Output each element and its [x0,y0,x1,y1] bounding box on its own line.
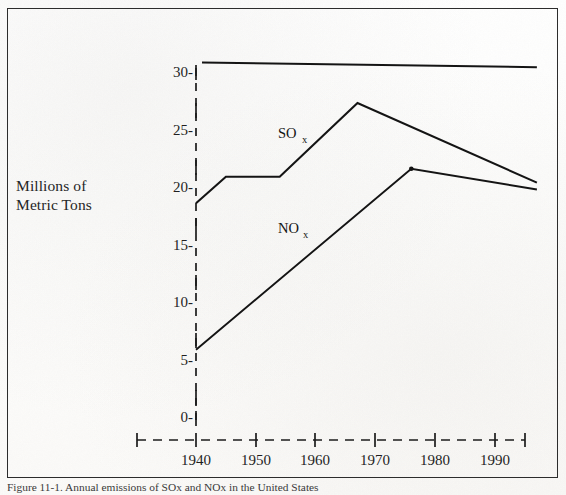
series-label-sox-subscript: x [302,134,308,145]
series-label-nox: NO x [278,220,309,240]
x-tick-label-1960: 1960 [300,452,330,468]
series-line-top-reference [202,63,537,68]
line-chart-plot: 30- 25- 20- 15- 10- 5- 0- 1940 1950 1960 [7,8,558,478]
series-label-nox-text: NO [278,220,299,236]
series-label-sox-text: SO [278,125,297,141]
y-axis-tick-labels: 30- 25- 20- 15- 10- 5- 0- [173,64,193,425]
y-tick-label-30: 30- [173,64,193,80]
x-axis-tick-labels: 1940 1950 1960 1970 1980 1990 [181,452,510,468]
series-line-sox [196,103,537,203]
series-label-sox: SO x [278,125,308,145]
y-tick-label-15: 15- [173,237,193,253]
y-tick-label-25: 25- [173,122,193,138]
x-tick-label-1940: 1940 [181,452,211,468]
y-tick-label-0: 0- [181,409,194,425]
figure-caption: Figure 11-1. Annual emissions of SOx and… [7,481,559,495]
y-tick-label-10: 10- [173,294,193,310]
figure-page: 30- 25- 20- 15- 10- 5- 0- 1940 1950 1960 [0,0,566,495]
x-tick-label-1980: 1980 [420,452,450,468]
y-tick-label-20: 20- [173,179,193,195]
nox-peak-marker [409,166,414,171]
x-tick-label-1990: 1990 [480,452,510,468]
series-label-nox-subscript: x [303,229,309,240]
series-line-nox [196,169,537,350]
x-tick-label-1950: 1950 [241,452,271,468]
y-tick-label-5: 5- [181,352,194,368]
x-tick-label-1970: 1970 [360,452,390,468]
y-axis-title: Millions of Metric Tons [16,176,146,214]
